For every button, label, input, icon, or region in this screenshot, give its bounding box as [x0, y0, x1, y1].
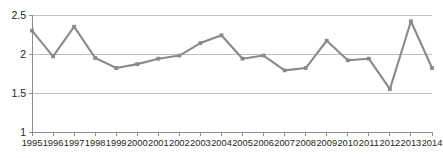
- y-tick-labels: 11.522.5: [11, 9, 26, 138]
- x-tick-label: 2014: [422, 138, 443, 148]
- y-tick-label: 1: [20, 126, 26, 138]
- data-point-marker: [325, 39, 329, 43]
- data-point-marker: [367, 57, 371, 61]
- series-line: [32, 21, 432, 89]
- x-tick-label: 1996: [43, 138, 64, 148]
- x-tick-label: 2013: [401, 138, 422, 148]
- data-series: [30, 19, 434, 91]
- y-tick-label: 1.5: [11, 87, 26, 99]
- x-tick-labels: 1995199619971998199920002001200220032004…: [22, 138, 443, 148]
- chart-canvas: 11.522.5 1995199619971998199920002001200…: [0, 0, 443, 158]
- data-point-marker: [304, 66, 308, 70]
- data-point-marker: [283, 68, 287, 72]
- data-point-marker: [30, 29, 34, 33]
- x-tick-label: 2005: [232, 138, 253, 148]
- data-point-marker: [51, 54, 55, 58]
- data-point-marker: [430, 66, 434, 70]
- data-point-marker: [262, 54, 266, 58]
- x-tick-label: 1998: [85, 138, 106, 148]
- data-point-marker: [199, 41, 203, 45]
- data-point-marker: [156, 57, 160, 61]
- data-point-marker: [135, 62, 139, 66]
- x-tick-label: 2002: [169, 138, 190, 148]
- x-tick-label: 2009: [316, 138, 337, 148]
- data-point-marker: [72, 25, 76, 29]
- data-point-marker: [388, 87, 392, 91]
- data-point-marker: [241, 57, 245, 61]
- x-tick-label: 2004: [211, 138, 232, 148]
- data-point-marker: [220, 33, 224, 37]
- x-tick-label: 2008: [295, 138, 316, 148]
- data-point-marker: [409, 19, 413, 23]
- x-tick-label: 2003: [190, 138, 211, 148]
- data-point-marker: [346, 58, 350, 62]
- x-tick-label: 1995: [22, 138, 43, 148]
- x-tick-label: 2006: [253, 138, 274, 148]
- y-tick-label: 2: [20, 48, 26, 60]
- data-point-marker: [114, 66, 118, 70]
- data-point-marker: [93, 56, 97, 60]
- x-tick-label: 2000: [127, 138, 148, 148]
- x-tick-label: 2012: [380, 138, 401, 148]
- data-point-marker: [177, 54, 181, 58]
- x-tick-label: 2007: [274, 138, 295, 148]
- gridlines: [32, 15, 432, 132]
- y-tick-label: 2.5: [11, 9, 26, 21]
- x-tick-label: 2001: [148, 138, 169, 148]
- line-chart: 11.522.5 1995199619971998199920002001200…: [0, 0, 443, 158]
- x-tick-label: 2010: [337, 138, 358, 148]
- x-tick-label: 1997: [64, 138, 85, 148]
- y-axis: [29, 15, 32, 132]
- x-tick-label: 1999: [106, 138, 127, 148]
- x-tick-label: 2011: [359, 138, 379, 148]
- x-axis: [32, 132, 432, 136]
